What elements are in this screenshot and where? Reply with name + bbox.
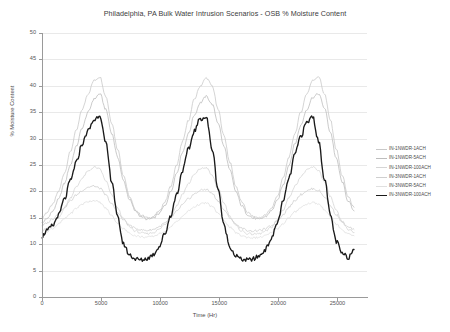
y-tick-mark (39, 33, 42, 34)
legend-item[interactable]: IN-3NWDR-5ACH (376, 182, 448, 191)
x-tick-label: 5000 (81, 301, 121, 307)
plot-area (42, 33, 367, 297)
chart-container: Philadelphia, PA Bulk Water Intrusion Sc… (0, 0, 450, 332)
legend-item[interactable]: IN-1NWDR-100ACH (376, 163, 448, 172)
x-axis-line (42, 297, 368, 298)
y-axis-line (42, 33, 43, 298)
y-tick-mark (39, 244, 42, 245)
legend-item[interactable]: IN-1NWDR-5ACH (376, 154, 448, 163)
legend-item[interactable]: IN-3NWDR-100ACH (376, 191, 448, 200)
y-tick-mark (39, 218, 42, 219)
y-axis-title: % Moisture Content (9, 51, 15, 171)
legend-swatch-icon (376, 149, 387, 150)
legend-label: IN-1NWDR-5ACH (389, 156, 426, 161)
series-line (42, 77, 354, 219)
x-tick-mark (42, 298, 43, 301)
y-tick-mark (39, 139, 42, 140)
series-lines (42, 33, 367, 297)
y-tick-label: 20 (8, 188, 36, 194)
x-tick-label: 20000 (258, 301, 298, 307)
y-tick-mark (39, 165, 42, 166)
y-tick-mark (39, 191, 42, 192)
y-tick-mark (39, 112, 42, 113)
legend-item[interactable]: IN-3NWDR-1ACH (376, 173, 448, 182)
x-tick-label: 0 (22, 301, 62, 307)
y-tick-mark (39, 59, 42, 60)
series-line (42, 185, 354, 231)
y-tick-label: 15 (8, 215, 36, 221)
x-tick-mark (219, 298, 220, 301)
y-tick-mark (39, 86, 42, 87)
x-axis-title: Time (Hr) (42, 312, 368, 318)
y-tick-mark (39, 271, 42, 272)
y-tick-label: 5 (8, 268, 36, 274)
x-tick-mark (160, 298, 161, 301)
series-line (42, 200, 354, 238)
y-tick-label: 0 (8, 294, 36, 300)
legend-swatch-icon (376, 158, 387, 159)
series-line (42, 116, 354, 261)
legend-label: IN-3NWDR-100ACH (389, 193, 431, 198)
legend-swatch-icon (376, 177, 387, 178)
legend-swatch-icon (376, 186, 387, 187)
legend-swatch-icon (376, 195, 387, 196)
legend-swatch-icon (376, 167, 387, 168)
legend-label: IN-3NWDR-5ACH (389, 184, 426, 189)
chart-title: Philadelphia, PA Bulk Water Intrusion Sc… (0, 9, 450, 18)
series-line (42, 166, 354, 234)
x-tick-mark (101, 298, 102, 301)
chart-legend: IN-1NWDR-1ACHIN-1NWDR-5ACHIN-1NWDR-100AC… (376, 145, 448, 200)
x-tick-mark (337, 298, 338, 301)
legend-label: IN-1NWDR-100ACH (389, 166, 431, 171)
legend-item[interactable]: IN-1NWDR-1ACH (376, 145, 448, 154)
x-tick-label: 10000 (140, 301, 180, 307)
series-line (42, 94, 354, 223)
x-tick-label: 25000 (317, 301, 357, 307)
x-tick-label: 15000 (199, 301, 239, 307)
y-tick-label: 50 (8, 30, 36, 36)
legend-label: IN-1NWDR-1ACH (389, 147, 426, 152)
y-tick-label: 10 (8, 241, 36, 247)
legend-label: IN-3NWDR-1ACH (389, 175, 426, 180)
x-tick-mark (278, 298, 279, 301)
